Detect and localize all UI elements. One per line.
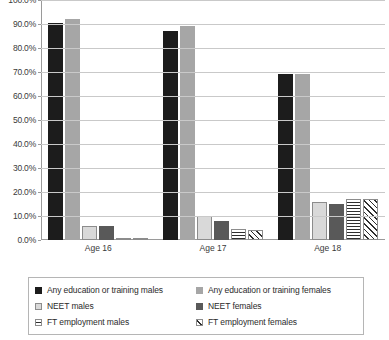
y-tick-mark bbox=[38, 144, 41, 145]
bar bbox=[312, 202, 327, 240]
legend: Any education or training malesAny educa… bbox=[28, 277, 364, 335]
y-tick-mark bbox=[38, 216, 41, 217]
gridline bbox=[41, 96, 385, 97]
bar-fill bbox=[116, 238, 131, 240]
gridline bbox=[41, 48, 385, 49]
legend-swatch-icon bbox=[35, 319, 42, 326]
bar-fill bbox=[65, 19, 80, 240]
bar-fill bbox=[48, 23, 63, 240]
legend-item[interactable]: FT employment males bbox=[35, 314, 196, 330]
y-axis-labels: 0.0%10.0%20.0%30.0%40.0%50.0%60.0%70.0%8… bbox=[0, 0, 40, 240]
gridline bbox=[41, 72, 385, 73]
y-tick-label: 100.0% bbox=[8, 0, 36, 5]
gridline bbox=[41, 168, 385, 169]
bar bbox=[197, 216, 212, 240]
bar bbox=[65, 19, 80, 240]
bar-chart: 0.0%10.0%20.0%30.0%40.0%50.0%60.0%70.0%8… bbox=[0, 0, 389, 340]
y-tick-mark bbox=[38, 96, 41, 97]
y-tick-mark bbox=[38, 24, 41, 25]
legend-item[interactable]: NEET females bbox=[196, 298, 357, 314]
bar-fill bbox=[346, 199, 361, 240]
bar bbox=[116, 238, 131, 240]
y-tick-label: 70.0% bbox=[13, 67, 36, 77]
gridline bbox=[41, 120, 385, 121]
y-tick-label: 20.0% bbox=[13, 187, 36, 197]
bar bbox=[363, 199, 378, 240]
bar-fill bbox=[99, 226, 114, 240]
y-tick-label: 10.0% bbox=[13, 211, 36, 221]
x-tick-label: Age 17 bbox=[156, 243, 271, 253]
legend-swatch-icon bbox=[35, 287, 42, 294]
gridline bbox=[41, 216, 385, 217]
bar bbox=[231, 229, 246, 240]
bar bbox=[329, 204, 344, 240]
y-tick-label: 90.0% bbox=[13, 19, 36, 29]
y-tick-label: 0.0% bbox=[17, 235, 36, 245]
legend-item[interactable]: Any education or training females bbox=[196, 282, 357, 298]
legend-label: Any education or training females bbox=[208, 285, 331, 295]
bar-fill bbox=[197, 216, 212, 240]
bar bbox=[82, 226, 97, 240]
gridline bbox=[41, 0, 385, 1]
legend-label: FT employment males bbox=[47, 317, 129, 327]
bar bbox=[346, 199, 361, 240]
bar-fill bbox=[82, 226, 97, 240]
x-tick-label: Age 16 bbox=[41, 243, 156, 253]
bar-fill bbox=[133, 238, 148, 240]
plot-canvas bbox=[41, 0, 385, 240]
legend-label: NEET males bbox=[47, 301, 94, 311]
y-tick-mark bbox=[38, 48, 41, 49]
bar-fill bbox=[163, 31, 178, 240]
gridline bbox=[41, 192, 385, 193]
legend-item[interactable]: Any education or training males bbox=[35, 282, 196, 298]
y-tick-label: 40.0% bbox=[13, 139, 36, 149]
y-tick-mark bbox=[38, 240, 41, 241]
bar bbox=[133, 238, 148, 240]
bar bbox=[99, 226, 114, 240]
y-tick-label: 30.0% bbox=[13, 163, 36, 173]
legend-item[interactable]: NEET males bbox=[35, 298, 196, 314]
legend-item[interactable]: FT employment females bbox=[196, 314, 357, 330]
y-tick-mark bbox=[38, 168, 41, 169]
plot-area: 0.0%10.0%20.0%30.0%40.0%50.0%60.0%70.0%8… bbox=[0, 0, 389, 272]
legend-label: FT employment females bbox=[208, 317, 297, 327]
gridline bbox=[41, 24, 385, 25]
legend-label: Any education or training males bbox=[47, 285, 163, 295]
legend-swatch-icon bbox=[196, 287, 203, 294]
y-tick-mark bbox=[38, 72, 41, 73]
x-tick-label: Age 18 bbox=[270, 243, 385, 253]
y-tick-label: 50.0% bbox=[13, 115, 36, 125]
bar bbox=[163, 31, 178, 240]
bar-fill bbox=[248, 230, 263, 240]
bar-fill bbox=[231, 229, 246, 240]
bar bbox=[214, 221, 229, 240]
x-axis-labels: Age 16Age 17Age 18 bbox=[41, 243, 385, 253]
legend-items: Any education or training malesAny educa… bbox=[35, 282, 357, 330]
y-tick-label: 80.0% bbox=[13, 43, 36, 53]
bar-fill bbox=[180, 26, 195, 240]
legend-label: NEET females bbox=[208, 301, 261, 311]
gridline bbox=[41, 144, 385, 145]
y-tick-mark bbox=[38, 0, 41, 1]
bar-fill bbox=[329, 204, 344, 240]
bar-fill bbox=[363, 199, 378, 240]
bar bbox=[180, 26, 195, 240]
y-tick-mark bbox=[38, 120, 41, 121]
bar bbox=[248, 230, 263, 240]
legend-swatch-icon bbox=[196, 319, 203, 326]
bar-fill bbox=[214, 221, 229, 240]
y-tick-label: 60.0% bbox=[13, 91, 36, 101]
bar-fill bbox=[312, 202, 327, 240]
y-tick-mark bbox=[38, 192, 41, 193]
legend-swatch-icon bbox=[35, 303, 42, 310]
bar bbox=[48, 23, 63, 240]
legend-swatch-icon bbox=[196, 303, 203, 310]
